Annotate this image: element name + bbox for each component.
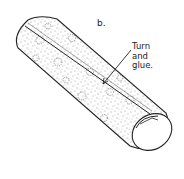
callout-text: Turn and glue. [132,42,153,71]
callout-line-3: glue. [132,61,153,71]
rolled-paper-tube-drawing [0,0,184,179]
tube-illustration: b. Turn and glue. [0,0,184,179]
figure-letter: b. [97,19,106,28]
